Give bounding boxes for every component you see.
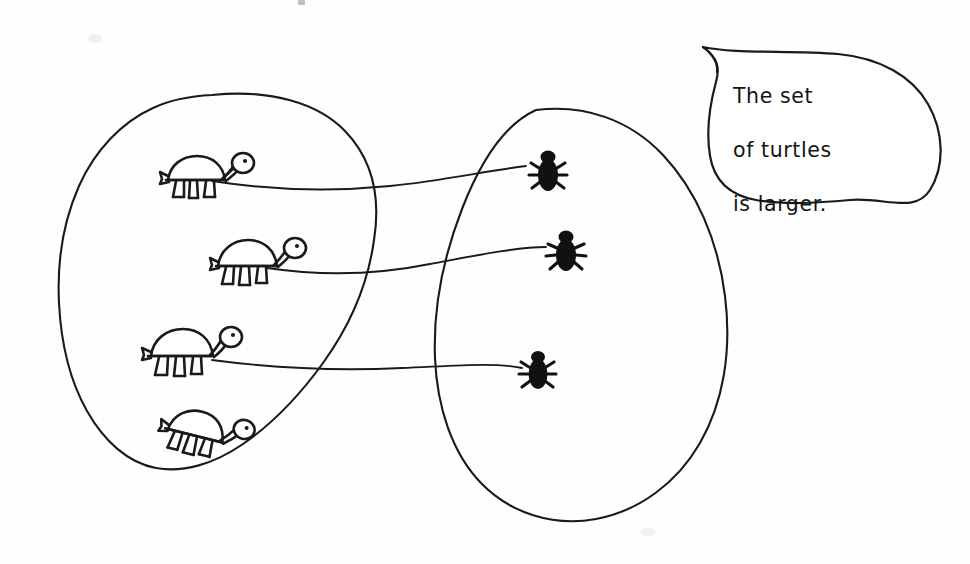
match-line-3[interactable] [212,360,522,369]
turtle-icon[interactable] [160,153,254,198]
bubble-line-2: of turtles [733,137,923,164]
left-set-boundary[interactable] [59,94,377,470]
bubble-line-3: is larger. [733,191,923,218]
turtle-icon[interactable] [142,327,242,376]
bug-icon[interactable] [529,151,567,192]
bubble-line-1: The set [733,83,923,110]
match-line-2[interactable] [267,247,546,273]
turtle-icon[interactable] [210,238,306,285]
bug-icon[interactable] [519,351,556,389]
speech-bubble-text: The set of turtles is larger. [733,56,923,245]
figure-canvas: The set of turtles is larger. [0,0,970,564]
turtle-icon[interactable] [155,400,257,468]
correspondence-lines [212,166,546,369]
bug-icon[interactable] [546,231,586,272]
right-set-boundary[interactable] [435,109,728,521]
